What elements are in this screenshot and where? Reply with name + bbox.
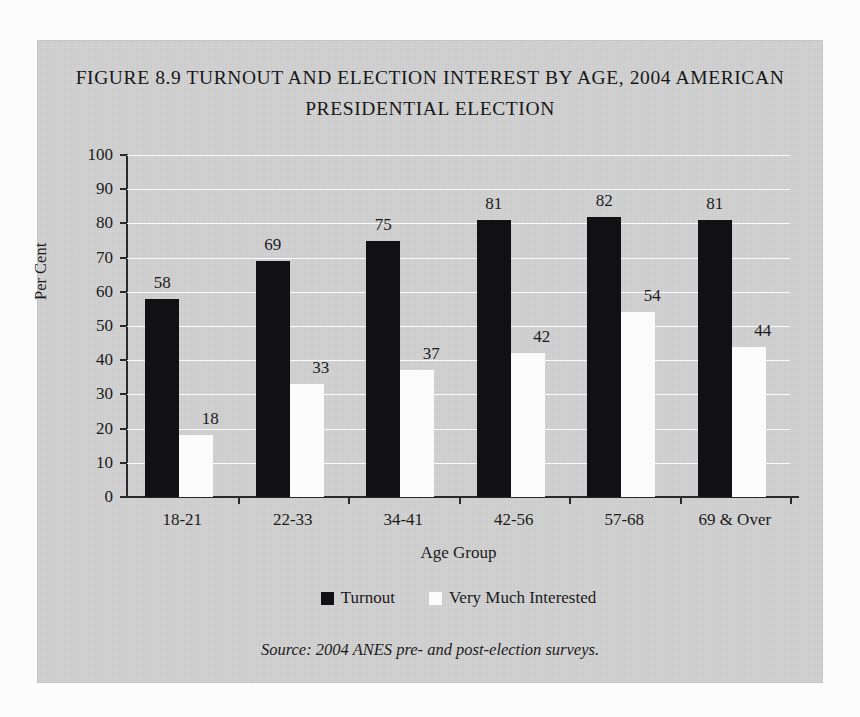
y-axis-tick: [120, 325, 127, 327]
bar-turnout-22-33: [256, 261, 290, 497]
source-note: Source: 2004 ANES pre- and post-election…: [77, 640, 783, 660]
y-axis-tick: [120, 291, 127, 293]
plot-area: 581869337537814282548144: [127, 155, 790, 497]
figure-panel: FIGURE 8.9 TURNOUT AND ELECTION INTEREST…: [37, 40, 823, 683]
x-axis-tick: [790, 497, 792, 504]
legend-item-very-much-interested[interactable]: Very Much Interested: [429, 588, 596, 608]
bar-value-label: 81: [706, 194, 723, 214]
y-axis-tick: [120, 257, 127, 259]
bar-very-much-interested-18-21: [179, 435, 213, 497]
legend-label: Turnout: [341, 588, 395, 608]
x-axis-tick: [680, 497, 682, 504]
y-axis-label: 0: [65, 487, 113, 507]
gridline: [127, 429, 790, 430]
bar-value-label: 69: [264, 235, 281, 255]
y-axis-label: 30: [65, 384, 113, 404]
bar-turnout-34-41: [366, 241, 400, 498]
y-axis-title: Per Cent: [31, 243, 51, 300]
legend-label: Very Much Interested: [449, 588, 596, 608]
x-axis-label-22-33: 22-33: [273, 510, 313, 530]
y-axis-label: 10: [65, 453, 113, 473]
chart-title-line-1: FIGURE 8.9 TURNOUT AND ELECTION INTEREST…: [67, 62, 793, 93]
gridline: [127, 463, 790, 464]
x-axis-label-42-56: 42-56: [494, 510, 534, 530]
chart-legend: TurnoutVery Much Interested: [127, 588, 790, 608]
x-axis-label-57-68: 57-68: [604, 510, 644, 530]
gridline: [127, 189, 790, 190]
bar-value-label: 44: [754, 321, 771, 341]
bar-value-label: 75: [375, 215, 392, 235]
gridline: [127, 326, 790, 327]
y-axis-label: 40: [65, 350, 113, 370]
bar-very-much-interested-69-over: [732, 347, 766, 497]
bar-value-label: 33: [312, 358, 329, 378]
bar-value-label: 54: [644, 286, 661, 306]
gridline: [127, 223, 790, 224]
y-axis-label: 60: [65, 282, 113, 302]
bar-turnout-42-56: [477, 220, 511, 497]
bar-value-label: 58: [154, 273, 171, 293]
gridline: [127, 497, 790, 498]
page-title: FIGURE 8.9 TURNOUT AND ELECTION INTEREST…: [67, 62, 793, 124]
y-axis-label: 80: [65, 213, 113, 233]
gridline: [127, 394, 790, 395]
x-axis-label-18-21: 18-21: [162, 510, 202, 530]
y-axis-label: 20: [65, 419, 113, 439]
bar-very-much-interested-57-68: [621, 312, 655, 497]
bar-turnout-69-over: [698, 220, 732, 497]
y-axis-tick: [120, 496, 127, 498]
chart-title-line-2: PRESIDENTIAL ELECTION: [67, 93, 793, 124]
y-axis-label: 70: [65, 248, 113, 268]
x-axis-tick: [348, 497, 350, 504]
x-axis-title: Age Group: [127, 543, 790, 563]
x-axis-tick: [238, 497, 240, 504]
legend-swatch-icon: [429, 592, 442, 605]
gridline: [127, 360, 790, 361]
bar-very-much-interested-42-56: [511, 353, 545, 497]
y-axis-tick: [120, 154, 127, 156]
y-axis-tick: [120, 222, 127, 224]
bar-value-label: 42: [533, 327, 550, 347]
y-axis-tick: [120, 393, 127, 395]
chart-plot: Per Cent 0102030405060708090100 18-2122-…: [37, 40, 823, 683]
y-axis-label: 100: [65, 145, 113, 165]
gridline: [127, 155, 790, 156]
y-axis-label: 90: [65, 179, 113, 199]
gridline: [127, 292, 790, 293]
bar-value-label: 82: [596, 191, 613, 211]
y-axis-label: 50: [65, 316, 113, 336]
bar-value-label: 81: [485, 194, 502, 214]
y-axis-tick: [120, 428, 127, 430]
y-axis-tick: [120, 462, 127, 464]
x-axis-tick: [569, 497, 571, 504]
gridline: [127, 258, 790, 259]
x-axis-tick: [459, 497, 461, 504]
bar-very-much-interested-22-33: [290, 384, 324, 497]
legend-swatch-icon: [321, 592, 334, 605]
bar-turnout-18-21: [145, 299, 179, 497]
bar-very-much-interested-34-41: [400, 370, 434, 497]
y-axis-tick: [120, 188, 127, 190]
bar-value-label: 37: [423, 344, 440, 364]
bar-value-label: 18: [202, 409, 219, 429]
x-axis-label-69-over: 69 & Over: [698, 510, 771, 530]
y-axis-tick: [120, 359, 127, 361]
x-axis-label-34-41: 34-41: [383, 510, 423, 530]
bar-turnout-57-68: [587, 217, 621, 497]
scanned-page: FIGURE 8.9 TURNOUT AND ELECTION INTEREST…: [0, 0, 860, 717]
legend-item-turnout[interactable]: Turnout: [321, 588, 395, 608]
